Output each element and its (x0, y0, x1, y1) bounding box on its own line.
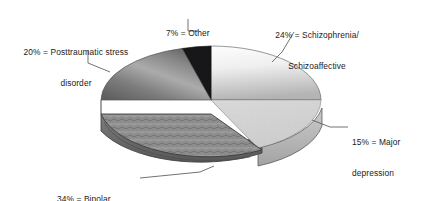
pie-chart-figure: 20% = Posttraumatic stress disorder 7% =… (0, 0, 428, 201)
slice-label-other: 7% = Other (166, 7, 228, 59)
slice-label-schizophrenia-line2: Schizoaffective (255, 61, 379, 71)
slice-label-major-depression-line1: 15% = Major (352, 137, 422, 147)
leader-line-bipolar (140, 166, 214, 178)
slice-label-major-depression-line2: depression (352, 168, 422, 178)
slice-label-bipolar-line1: 34% = Bipolar (57, 194, 137, 201)
slice-label-ptsd-line2: disorder (13, 78, 139, 88)
slice-label-major-depression: 15% = Major depression (352, 116, 422, 199)
slice-label-ptsd-line1: 20% = Posttraumatic stress (13, 47, 139, 57)
slice-label-ptsd: 20% = Posttraumatic stress disorder (13, 26, 139, 109)
slice-label-schizophrenia: 24% = Schizophrenia/ Schizoaffective (255, 9, 379, 92)
slice-label-bipolar: 34% = Bipolar (57, 173, 137, 201)
slice-label-schizophrenia-line1: 24% = Schizophrenia/ (255, 30, 379, 40)
slice-label-other-line1: 7% = Other (166, 28, 228, 38)
